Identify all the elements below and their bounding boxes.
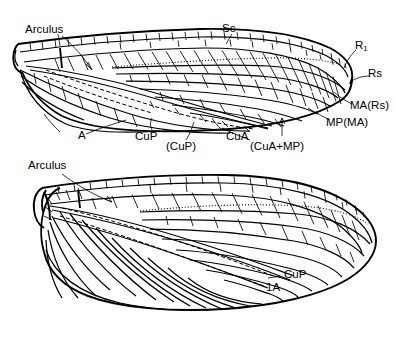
label-ma-rs: MA(Rs) [350,100,389,112]
hindwing-median-cubital-veins [50,206,294,288]
label-cup: CuP [135,131,157,143]
hindwing-group [34,175,376,310]
hindwing-radial-branches [140,211,370,302]
label-a: A [78,130,86,142]
forewing-arculus-vein [60,48,62,68]
arculus-leader-forewing [62,36,92,70]
forewing-radius-vein [24,48,345,93]
venation-drawing [0,0,395,356]
label-arculus-hindwing: Arculus [28,160,66,172]
forewing-leader-lines [44,34,370,140]
label-1a: 1A [266,282,280,294]
forewing-anal-veins [20,70,250,133]
label-r1: R1 [355,40,368,53]
label-mp-ma: MP(MA) [326,117,368,129]
forewing-group [13,29,352,133]
hindwing-leader-lines [62,174,280,278]
hindwing-radius-vein [50,195,362,253]
label-sc: Sc [222,23,235,35]
label-cua-mp: (CuA+MP) [250,141,304,153]
label-r1-subscript: 1 [363,44,367,53]
label-arculus-forewing: Arculus [25,24,63,36]
label-cup-hindwing: CuP [284,269,306,281]
label-cua: CuA [226,131,248,143]
wing-venation-figure: Arculus Sc R1 Rs MA(Rs) MP(MA) A CuP (Cu… [0,0,395,356]
label-cup-paren: (CuP) [166,141,196,153]
label-rs: Rs [368,68,382,80]
hindwing-anal-fan-veins [46,212,262,309]
sc-leader [226,34,232,44]
hindwing-subcostal-crossveins [150,184,357,215]
forewing-base-crossveins [34,73,137,127]
